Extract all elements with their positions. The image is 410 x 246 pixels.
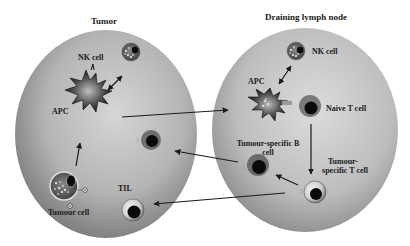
tumour-specific-b-cell-label-2: cell (262, 148, 274, 157)
tumour-specific-b-cell-label-1: Tumour-specific B (237, 139, 300, 148)
tumor-title: Tumor (91, 16, 117, 26)
lymph-node-compartment (212, 28, 398, 232)
apc-lymph-label: APC (248, 77, 265, 86)
tumor-compartment (15, 30, 197, 238)
nk-cell-tumor-label: NK cell (78, 53, 104, 62)
tumour-specific-t-cell-label-1: Tumour- (328, 157, 358, 166)
immune-response-diagram: Tumor Draining lymph node NK cell APC Tu… (0, 0, 410, 246)
tumour-specific-t-cell-label-2: specific T cell (322, 166, 369, 175)
naive-t-cell (299, 95, 321, 117)
til-label: TIL (118, 184, 132, 193)
apc-tumor-label: APC (52, 107, 69, 116)
lymph-node-title: Draining lymph node (265, 12, 347, 22)
naive-t-cell-label: Naive T cell (326, 104, 367, 113)
nk-cell-lymph-label: NK cell (312, 47, 338, 56)
nk-cell-tumor (122, 43, 140, 61)
tumour-cell-label: Tumour cell (48, 208, 90, 217)
nk-cell-lymph (287, 42, 305, 60)
